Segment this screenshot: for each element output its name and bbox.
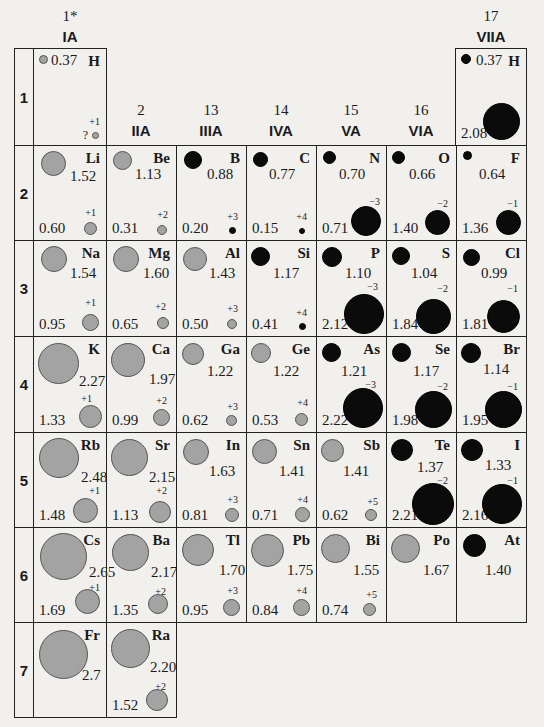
element-cell-te: Te 1.37 −2 2.21: [386, 432, 457, 528]
atom-circle: [113, 246, 139, 272]
element-symbol: I: [514, 437, 520, 454]
ion-circle: [227, 319, 237, 329]
ion-circle: [79, 405, 102, 428]
ion-circle: [482, 484, 522, 524]
ion-circle: [483, 103, 520, 140]
atomic-radius: 2.27: [79, 373, 105, 390]
atom-circle: [392, 247, 410, 265]
group-label-va: VA: [316, 122, 386, 139]
ionic-radius: 1.35: [112, 602, 138, 619]
ionic-radius: 0.95: [182, 602, 208, 619]
atom-circle: [38, 343, 79, 384]
group-label-viia: VIIA: [456, 28, 526, 45]
atomic-radius: 0.99: [481, 265, 507, 282]
atomic-radius: 0.66: [409, 166, 435, 183]
element-cell-h-group17: 0.37 H 2.08: [455, 48, 527, 146]
element-cell-o: O 0.66 −2 1.40: [386, 145, 457, 241]
ion-circle: [92, 132, 99, 139]
atomic-radius: 1.70: [219, 562, 245, 579]
ion-circle: [416, 299, 451, 334]
atom-circle: [182, 534, 214, 566]
element-cell-as: As 1.21 −3 2.22: [316, 336, 387, 433]
atom-circle: [321, 534, 350, 563]
element-cell-mg: Mg 1.60 +2 0.65: [106, 240, 177, 337]
ion-circle: [496, 210, 521, 235]
ion-circle: [153, 409, 170, 426]
atom-circle: [461, 439, 483, 461]
ion-circle: [425, 210, 450, 235]
element-symbol: Al: [225, 245, 240, 262]
atom-circle: [461, 54, 471, 64]
atomic-radius: 2.20: [150, 659, 176, 676]
element-symbol: B: [230, 150, 240, 167]
ion-circle: [73, 498, 98, 523]
element-cell-pb: Pb 1.75 +4 0.84: [246, 527, 317, 623]
atom-circle: [183, 439, 209, 465]
group-label-via: VIA: [386, 122, 456, 139]
ion-circle: [365, 509, 377, 521]
atom-circle: [113, 151, 132, 170]
ion-circle: [343, 388, 383, 428]
element-cell-c: C 0.77 +4 0.15: [246, 145, 317, 241]
element-symbol: Pb: [292, 532, 310, 549]
element-symbol: In: [226, 437, 240, 454]
ion-circle: [299, 228, 305, 234]
atomic-radius: 1.17: [413, 363, 439, 380]
ionic-radius-unknown: ?: [83, 128, 88, 143]
element-cell-k: K 2.27 +1 1.33: [33, 336, 107, 433]
ion-charge: +2: [156, 395, 167, 406]
atom-circle: [184, 151, 202, 169]
atomic-radius: 1.63: [209, 463, 235, 480]
ion-charge: +3: [227, 494, 238, 505]
ion-circle: [229, 227, 236, 234]
ion-charge: −2: [437, 381, 448, 392]
group-label-ia: IA: [35, 28, 105, 45]
atomic-radius: 0.88: [207, 166, 233, 183]
atomic-radius: 1.75: [287, 562, 313, 579]
ion-charge: +4: [296, 307, 307, 318]
element-cell-s: S 1.04 −2 1.84: [386, 240, 457, 337]
ion-charge: +3: [227, 211, 238, 222]
ionic-radius: 1.95: [462, 412, 488, 429]
ion-circle: [487, 300, 520, 333]
atom-circle: [251, 247, 270, 266]
ion-circle: [82, 314, 99, 331]
ion-circle: [157, 225, 167, 235]
element-symbol: Ga: [221, 341, 240, 358]
group-label-iia: IIA: [106, 122, 176, 139]
group-number-2: 2: [106, 102, 176, 119]
atom-circle: [183, 247, 207, 271]
group-number-14: 14: [246, 102, 316, 119]
ion-circle: [75, 589, 100, 614]
element-cell-ga: Ga 1.22 +3 0.62: [176, 336, 247, 433]
ion-charge: +4: [297, 494, 308, 505]
atomic-radius: 1.67: [423, 562, 449, 579]
ionic-radius: 0.95: [39, 316, 65, 333]
ionic-radius: 0.84: [252, 602, 278, 619]
ion-circle: [149, 501, 171, 523]
ion-charge: +5: [367, 496, 378, 507]
ionic-radius: 0.60: [39, 220, 65, 237]
element-symbol: C: [299, 150, 310, 167]
ion-charge: +4: [296, 211, 307, 222]
group-number-1: 1*: [35, 8, 105, 25]
element-cell-sn: Sn 1.41 +4 0.71: [246, 432, 317, 528]
atomic-radius: 2.17: [151, 564, 177, 581]
element-cell-at: At 1.40: [456, 527, 527, 623]
ion-charge: −3: [369, 196, 380, 207]
group-number-16: 16: [386, 102, 456, 119]
element-symbol: Po: [433, 532, 450, 549]
ionic-radius: 1.84: [392, 316, 418, 333]
ion-circle: [225, 508, 239, 522]
atom-circle: [392, 151, 405, 164]
ion-charge: +1: [85, 297, 96, 308]
atomic-radius: 0.77: [269, 166, 295, 183]
group-number-17: 17: [456, 8, 526, 25]
ion-charge: +2: [157, 209, 168, 220]
element-symbol: Ge: [292, 341, 310, 358]
ionic-radius: 1.13: [112, 507, 138, 524]
atomic-radius: 0.37: [476, 52, 502, 69]
atom-circle: [463, 151, 472, 160]
atomic-radius: 1.52: [70, 168, 96, 185]
ionic-radius: 1.36: [462, 220, 488, 237]
